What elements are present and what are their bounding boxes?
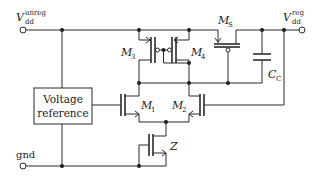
- m2-sub: 2: [182, 106, 186, 114]
- gnd-label: gnd: [16, 149, 36, 160]
- voltage-reference-block: Voltage reference: [34, 88, 92, 124]
- vin-sub: dd: [25, 18, 34, 26]
- cc-sub: C: [276, 75, 281, 83]
- vin-terminal: [20, 27, 26, 33]
- transistor-m2: [189, 83, 204, 122]
- vref-label-line1: Voltage: [42, 93, 83, 105]
- m3-sub: 3: [131, 53, 135, 61]
- vout-terminal: [299, 27, 305, 33]
- capacitor-cc: [228, 30, 271, 83]
- vin-label: V: [16, 11, 25, 24]
- m1-sub: 1: [151, 106, 155, 114]
- transistor-m1: [121, 83, 139, 122]
- m4-sub: 4: [201, 53, 206, 61]
- transistor-m3: [139, 30, 160, 83]
- circuit-diagram: Voltage reference: [0, 0, 318, 183]
- gnd-terminal: [20, 163, 26, 169]
- transistor-ms: [214, 30, 240, 83]
- vin-sup: unreg: [25, 9, 47, 17]
- vout-sub: dd: [292, 18, 301, 26]
- vout-label: V: [283, 11, 292, 24]
- vout-sup: reg: [292, 9, 304, 17]
- ms-sub: S: [228, 21, 233, 29]
- ground-rail: [20, 163, 166, 169]
- transistor-z: [139, 122, 166, 166]
- vref-label-line2: reference: [37, 107, 88, 119]
- z-label: Z: [169, 140, 178, 153]
- supply-rail: [20, 27, 218, 33]
- transistor-m4: [168, 30, 190, 83]
